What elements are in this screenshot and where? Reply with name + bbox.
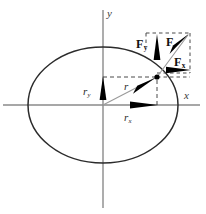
position-component-y-group <box>100 76 107 100</box>
orbit-point-marker <box>154 74 159 79</box>
force-vector-label-text: F <box>166 35 173 49</box>
force-component-y-group <box>154 34 161 60</box>
force-component-y-arrow <box>154 34 161 60</box>
force-component-y-label: Fy <box>136 38 147 50</box>
position-component-x-label-sub: x <box>129 117 132 124</box>
force-vector-label: F <box>166 36 173 48</box>
diagram-canvas <box>0 0 206 214</box>
position-vector-group <box>103 77 157 105</box>
position-component-y-arrow <box>100 76 107 100</box>
position-component-x-label: rx <box>124 112 131 123</box>
force-component-x-label-sub: x <box>182 61 186 70</box>
y-axis-label: y <box>107 8 112 19</box>
force-component-y-label-text: F <box>136 37 143 51</box>
position-vector-label: r <box>124 81 128 92</box>
physics-diagram-ellipse-force: x y r ry rx F Fy Fx <box>0 0 206 214</box>
force-component-x-label: Fx <box>174 56 185 68</box>
position-component-x-group <box>130 102 158 109</box>
position-component-x-label-text: r <box>124 111 128 123</box>
position-component-y-label: ry <box>83 86 90 97</box>
position-vector-arrowhead <box>133 78 155 94</box>
position-component-y-label-sub: y <box>88 91 91 98</box>
position-vector-label-text: r <box>124 80 128 92</box>
force-component-x-label-text: F <box>174 55 181 69</box>
position-component-x-arrow <box>130 102 158 109</box>
position-component-y-label-text: r <box>83 85 87 97</box>
force-component-y-label-sub: y <box>144 43 148 52</box>
x-axis-label: x <box>184 90 189 101</box>
